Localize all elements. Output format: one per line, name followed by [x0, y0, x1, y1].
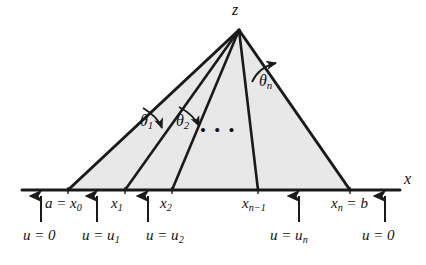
theta-n-sub: n — [267, 79, 272, 91]
theta-n-label: θn — [259, 73, 272, 91]
boundary-u2-base: u = u — [146, 227, 179, 243]
boundary-label-u-equals-u1: u = u1 — [82, 228, 120, 245]
theta-n-base: θ — [259, 72, 267, 89]
node-label-x1: x1 — [111, 196, 123, 213]
node-label-x0: a = x0 — [45, 196, 82, 213]
theta-1-label: θ1 — [140, 113, 153, 131]
figure-canvas: z x θ1 θ2 θn • • • a = x0 x1 x2 xn−1 xn … — [0, 0, 426, 265]
node-x2-base: x — [160, 195, 167, 211]
node-x1-base: x — [111, 195, 118, 211]
boundary-label-u-equals-0-left: u = 0 — [23, 228, 56, 243]
node-xn-1-base: x — [242, 195, 249, 211]
theta-2-base: θ — [176, 112, 184, 129]
node-label-xn: xn = b — [331, 196, 368, 213]
theta-1-sub: 1 — [148, 119, 153, 131]
triangle-fill — [68, 30, 350, 190]
boundary-label-u-equals-0-right: u = 0 — [362, 228, 395, 243]
node-xn-base: x — [331, 195, 338, 211]
ellipsis-dots: • • • — [200, 122, 236, 139]
boundary-label-u-equals-un: u = un — [270, 228, 308, 245]
node-x0-base: a = x — [45, 195, 77, 211]
apex-label-z: z — [232, 2, 238, 18]
boundary-un-sub: n — [303, 234, 308, 245]
node-xn-tail: = b — [343, 195, 368, 211]
boundary-u1-sub: 1 — [115, 234, 120, 245]
boundary-u1-base: u = u — [82, 227, 115, 243]
node-label-x2: x2 — [160, 196, 172, 213]
node-x0-sub: 0 — [77, 202, 82, 213]
node-xn-1-sub: n−1 — [249, 202, 266, 213]
boundary-un-base: u = u — [270, 227, 303, 243]
axis-label-x: x — [404, 171, 411, 187]
node-x2-sub: 2 — [167, 202, 172, 213]
theta-1-base: θ — [140, 112, 148, 129]
boundary-u2-sub: 2 — [179, 234, 184, 245]
theta-2-sub: 2 — [184, 119, 189, 131]
theta-2-label: θ2 — [176, 113, 189, 131]
node-x1-sub: 1 — [118, 202, 123, 213]
node-label-xn-1: xn−1 — [242, 196, 266, 213]
boundary-label-u-equals-u2: u = u2 — [146, 228, 184, 245]
